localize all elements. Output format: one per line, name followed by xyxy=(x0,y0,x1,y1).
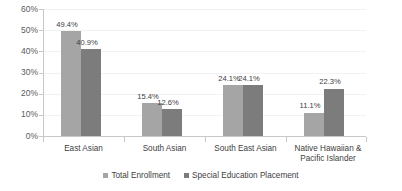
value-label-native-hawaiian-pacific-islander-total-enrollment: 11.1% xyxy=(290,102,330,110)
x-category-label-east-asian: East Asian xyxy=(43,144,124,154)
plot-area xyxy=(44,9,366,136)
y-tick-label-40: 40% xyxy=(0,47,38,56)
value-label-south-asian-special-education-placement: 12.6% xyxy=(148,99,188,107)
legend-label-special-education-placement: Special Education Placement xyxy=(192,171,299,180)
legend-swatch-icon-total-enrollment xyxy=(103,173,108,178)
value-label-south-east-asian-special-education-placement: 24.1% xyxy=(229,75,269,83)
legend-label-total-enrollment: Total Enrollment xyxy=(111,171,170,180)
bar-east-asian-total-enrollment[interactable] xyxy=(61,31,81,136)
legend-swatch-icon-special-education-placement xyxy=(184,173,189,178)
x-tick-mark-2 xyxy=(205,137,206,142)
gridline-60 xyxy=(44,9,366,10)
bar-south-east-asian-special-education-placement[interactable] xyxy=(243,85,263,136)
x-tick-mark-0 xyxy=(43,137,44,142)
x-category-label-native-hawaiian-pacific-islander: Native Hawaiian & Pacific Islander xyxy=(286,144,370,163)
bar-south-asian-total-enrollment[interactable] xyxy=(142,103,162,136)
legend-item-total-enrollment[interactable]: Total Enrollment xyxy=(103,171,170,180)
x-tick-mark-1 xyxy=(124,137,125,142)
y-tick-mark-60 xyxy=(39,9,43,10)
y-tick-label-50: 50% xyxy=(0,26,38,35)
bar-native-hawaiian-pacific-islander-special-education-placement[interactable] xyxy=(324,89,344,136)
value-label-east-asian-special-education-placement: 40.9% xyxy=(67,39,107,47)
legend-item-special-education-placement[interactable]: Special Education Placement xyxy=(184,171,299,180)
x-category-label-south-east-asian: South East Asian xyxy=(205,144,286,154)
y-tick-label-0: 0% xyxy=(0,132,38,141)
bar-chart: 60% 50% 40% 30% 20% 10% 0% 49.4% xyxy=(0,0,402,191)
y-tick-mark-10 xyxy=(39,115,43,116)
y-tick-label-30: 30% xyxy=(0,68,38,77)
gridline-50 xyxy=(44,30,366,31)
y-tick-mark-50 xyxy=(39,30,43,31)
bar-south-asian-special-education-placement[interactable] xyxy=(162,109,182,136)
legend: Total Enrollment Special Education Place… xyxy=(0,171,402,180)
value-label-native-hawaiian-pacific-islander-special-education-placement: 22.3% xyxy=(310,78,350,86)
y-axis: 60% 50% 40% 30% 20% 10% 0% xyxy=(0,0,38,191)
bar-native-hawaiian-pacific-islander-total-enrollment[interactable] xyxy=(304,113,324,137)
bar-south-east-asian-total-enrollment[interactable] xyxy=(223,85,243,136)
value-label-east-asian-total-enrollment: 49.4% xyxy=(47,21,87,29)
y-tick-label-10: 10% xyxy=(0,110,38,119)
y-tick-mark-30 xyxy=(39,73,43,74)
x-tick-mark-3 xyxy=(286,137,287,142)
y-tick-mark-20 xyxy=(39,94,43,95)
x-tick-mark-4 xyxy=(366,137,367,142)
y-tick-label-20: 20% xyxy=(0,89,38,98)
y-tick-mark-40 xyxy=(39,51,43,52)
y-tick-label-60: 60% xyxy=(0,5,38,14)
x-category-label-south-asian: South Asian xyxy=(124,144,205,154)
bar-east-asian-special-education-placement[interactable] xyxy=(81,49,101,136)
